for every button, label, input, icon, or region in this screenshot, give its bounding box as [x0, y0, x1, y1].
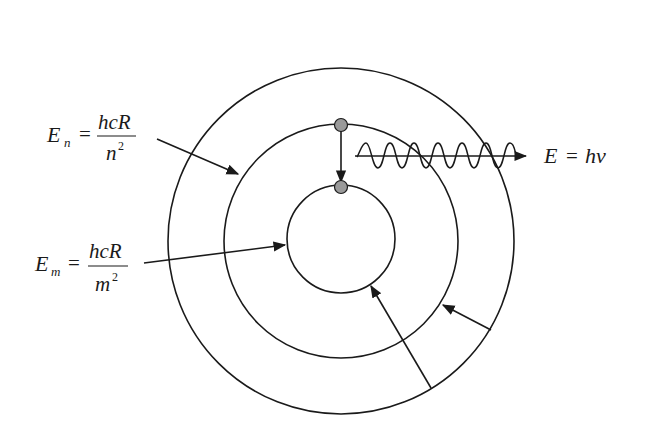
- svg-text:E: E: [46, 122, 61, 147]
- svg-text:hcR: hcR: [89, 239, 122, 263]
- inner-orbit-bottom-arrow: [371, 286, 431, 388]
- svg-text:hν: hν: [585, 143, 606, 168]
- svg-text:=: =: [79, 122, 91, 146]
- svg-text:hcR: hcR: [98, 110, 131, 134]
- bohr-model-diagram: E n = hcR n 2 E m = hcR m 2 E = hν: [0, 0, 650, 436]
- svg-text:2: 2: [118, 139, 124, 153]
- svg-text:2: 2: [112, 270, 118, 284]
- middle-orbit-right-arrow: [443, 305, 491, 330]
- photon-energy-label: E = hν: [543, 143, 606, 168]
- electron-initial: [335, 119, 348, 132]
- em-pointer-arrow: [144, 245, 285, 263]
- svg-text:n: n: [64, 135, 71, 150]
- svg-text:m: m: [51, 264, 60, 279]
- svg-text:=: =: [68, 251, 80, 275]
- inner-orbit-m: [287, 185, 395, 293]
- en-equation-label: E n = hcR n 2: [46, 110, 136, 165]
- electron-final: [335, 181, 348, 194]
- svg-text:m: m: [95, 272, 110, 296]
- svg-text:E: E: [543, 143, 558, 168]
- svg-text:E: E: [34, 251, 49, 276]
- em-equation-label: E m = hcR m 2: [34, 239, 128, 296]
- svg-text:=: =: [566, 144, 578, 168]
- svg-text:n: n: [106, 141, 117, 165]
